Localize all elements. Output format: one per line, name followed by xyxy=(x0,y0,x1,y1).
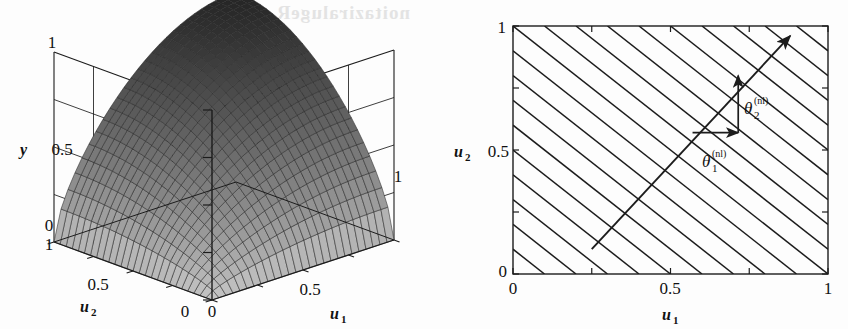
theta1-superscript: (nl) xyxy=(712,148,726,160)
surface-u2tick-0_5: 0.5 xyxy=(87,275,108,294)
theta2-label: θ 2 (nl) xyxy=(744,95,768,121)
theta2-symbol: θ xyxy=(744,99,752,118)
contour-x-axis-ticklabels: 0 0.5 1 xyxy=(509,279,833,298)
contour-y-axis-label-sub: 2 xyxy=(465,151,471,163)
contour-xtick-1: 1 xyxy=(824,279,833,298)
surface-u1tick-0: 0 xyxy=(208,302,217,321)
theta1-subscript: 1 xyxy=(712,162,718,174)
theta2-superscript: (nl) xyxy=(754,95,768,107)
surface-u2tick-1: 1 xyxy=(45,235,54,254)
theta1-label: θ 1 (nl) xyxy=(702,148,726,174)
surface-u2-axis-label-sub: 2 xyxy=(91,306,97,318)
surface-u2tick-0: 0 xyxy=(181,302,190,321)
surface-ytick-0_5: 0.5 xyxy=(51,140,72,159)
theta1-symbol: θ xyxy=(702,152,710,171)
contour-y-axis-label-var: u xyxy=(454,143,463,160)
surface-ytick-0: 0 xyxy=(45,216,54,235)
theta2-subscript: 2 xyxy=(754,109,760,121)
surface-ytick-1: 1 xyxy=(48,33,57,52)
contour-plot-panel: θ 1 (nl) θ 2 (nl) 1 0.5 0 u 2 0 xyxy=(424,0,848,329)
contour-x-axis-label-var: u xyxy=(662,306,671,323)
contour-xtick-0: 0 xyxy=(509,279,518,298)
surface-u1-axis-label-var: u xyxy=(330,305,339,322)
surface-plot-panel: 1 0.5 0 y 1 0.5 0 u 2 0 0.5 1 u xyxy=(0,0,424,329)
surface-u1-axis-label-sub: 1 xyxy=(341,313,347,325)
contour-ytick-1: 1 xyxy=(498,18,507,37)
contour-xtick-0_5: 0.5 xyxy=(659,279,680,298)
contour-lines-group xyxy=(513,26,828,274)
contour-plot-svg: θ 1 (nl) θ 2 (nl) 1 0.5 0 u 2 0 xyxy=(424,0,848,329)
figure-root: noitaziralugeR 1 0.5 0 y 1 0.5 0 xyxy=(0,0,848,329)
surface-mesh xyxy=(54,0,394,300)
surface-u1tick-1: 1 xyxy=(394,167,403,186)
surface-y-axis-label: y xyxy=(18,141,28,159)
surface-u2-axis-label-var: u xyxy=(80,298,89,315)
contour-y-axis-label: u 2 xyxy=(454,143,471,163)
surface-u1-axis-label: u 1 xyxy=(330,305,347,325)
surface-plot-svg: 1 0.5 0 y 1 0.5 0 u 2 0 0.5 1 u xyxy=(0,0,424,329)
surface-u1tick-0_5: 0.5 xyxy=(299,280,320,299)
gradient-arrow-group xyxy=(592,36,790,249)
contour-ytick-0: 0 xyxy=(499,262,508,281)
gradient-direction-arrow xyxy=(592,36,790,249)
contour-x-axis-label-sub: 1 xyxy=(673,314,679,326)
surface-u2-axis-label: u 2 xyxy=(80,298,97,318)
contour-y-axis-ticklabels: 1 0.5 0 xyxy=(488,18,509,281)
contour-x-axis-label: u 1 xyxy=(662,306,679,326)
contour-ytick-0_5: 0.5 xyxy=(488,142,509,161)
